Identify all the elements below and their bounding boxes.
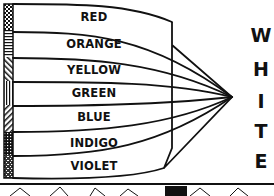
band-label-indigo: INDIGO: [14, 136, 174, 150]
band-label-yellow: YELLOW: [14, 63, 174, 77]
band-label-green: GREEN: [14, 86, 174, 100]
white-letter-w: W: [250, 24, 272, 46]
band-label-blue: BLUE: [14, 110, 174, 124]
band-label-violet: VIOLET: [14, 159, 174, 173]
band-label-orange: ORANGE: [14, 37, 174, 51]
band-label-red: RED: [14, 10, 174, 24]
white-letter-h: H: [250, 58, 272, 80]
white-letter-i: I: [250, 90, 272, 112]
spectrum-diagram: RED ORANGE YELLOW GREEN BLUE INDIGO VIOL…: [0, 0, 274, 196]
white-letter-e: E: [250, 150, 272, 172]
white-letter-t: T: [250, 120, 272, 142]
pattern-key-column: [4, 4, 13, 178]
bottom-strip-illustration: [0, 184, 274, 196]
